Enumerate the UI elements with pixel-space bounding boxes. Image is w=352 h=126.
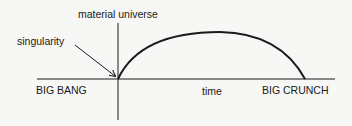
singularity-label: singularity xyxy=(17,36,64,47)
big-crunch-label: BIG CRUNCH xyxy=(262,85,329,96)
big-bang-label: BIG BANG xyxy=(36,85,87,96)
singularity-arrow xyxy=(75,45,115,76)
diagram-graphics xyxy=(0,0,352,126)
cosmology-diagram: material universe singularity BIG BANG t… xyxy=(0,0,352,126)
time-label: time xyxy=(202,86,222,97)
y-axis-label: material universe xyxy=(78,9,158,20)
expansion-curve xyxy=(118,32,305,79)
